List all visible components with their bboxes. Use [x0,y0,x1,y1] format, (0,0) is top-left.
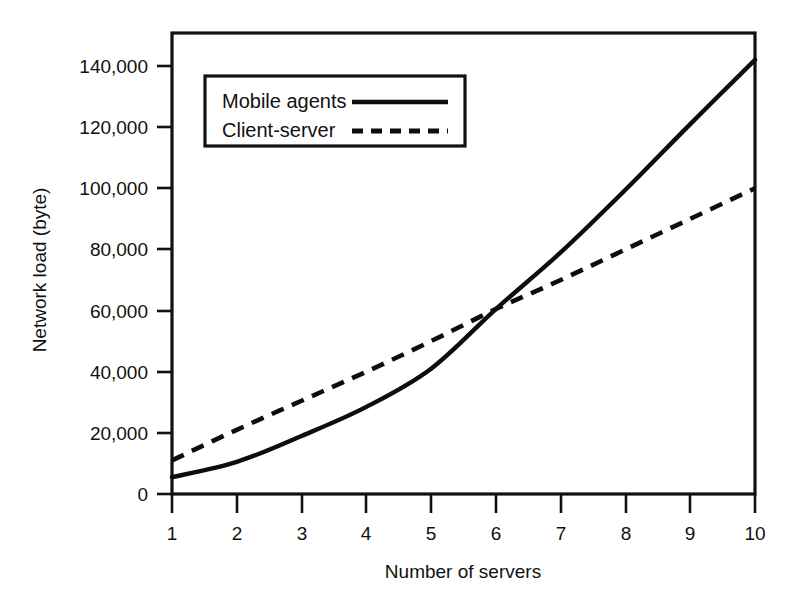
y-tick-label: 140,000 [79,56,148,77]
y-tick-label: 20,000 [90,423,148,444]
y-tick-label: 40,000 [90,362,148,383]
y-axis-ticks [157,66,172,494]
legend-label-client-server: Client-server [222,119,336,141]
y-tick-label: 120,000 [79,117,148,138]
y-axis-title: Network load (byte) [29,188,50,353]
legend-label-mobile-agents: Mobile agents [222,90,347,112]
x-tick-label: 2 [232,523,243,544]
x-tick-label: 10 [744,523,765,544]
x-tick-label: 5 [426,523,437,544]
line-chart: 0 20,000 40,000 60,000 80,000 100,000 12… [0,0,794,600]
y-tick-label: 80,000 [90,239,148,260]
y-axis-tick-labels: 0 20,000 40,000 60,000 80,000 100,000 12… [79,56,148,505]
legend: Mobile agents Client-server [205,76,465,146]
y-tick-label: 0 [137,484,148,505]
series-line-client-server [172,188,755,460]
x-axis-title: Number of servers [385,561,541,582]
y-tick-label: 60,000 [90,301,148,322]
x-tick-label: 3 [297,523,308,544]
x-tick-label: 9 [685,523,696,544]
x-axis-tick-labels: 1 2 3 4 5 6 7 8 9 10 [167,523,766,544]
x-tick-label: 1 [167,523,178,544]
x-axis-ticks [172,494,755,513]
x-tick-label: 7 [556,523,567,544]
x-tick-label: 4 [361,523,372,544]
x-tick-label: 8 [621,523,632,544]
y-tick-label: 100,000 [79,178,148,199]
chart-figure: 0 20,000 40,000 60,000 80,000 100,000 12… [0,0,794,600]
x-tick-label: 6 [491,523,502,544]
